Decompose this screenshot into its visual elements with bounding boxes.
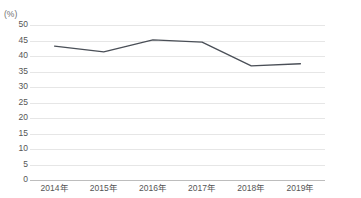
x-axis-tick-labels: 2014年2015年2016年2017年2018年2019年 [30,183,325,197]
series-layer [30,25,325,180]
y-tick-label: 35 [2,67,28,76]
y-tick-label: 50 [2,20,28,29]
x-tick-label: 2014年 [41,183,69,193]
y-tick-label: 45 [2,36,28,45]
y-tick-label: 30 [2,82,28,91]
y-tick-label: 40 [2,51,28,60]
y-axis-unit-label: (%) [4,9,17,19]
x-tick-label: 2018年 [237,183,265,193]
y-tick-label: 10 [2,144,28,153]
y-tick-label: 15 [2,129,28,138]
y-tick-label: 0 [2,175,28,184]
y-tick-label: 25 [2,98,28,107]
chart-title-clipped [0,0,361,7]
y-tick-label: 20 [2,113,28,122]
gridline-0 [30,180,325,181]
y-axis-tick-labels: 50454035302520151050 [0,25,28,180]
series-line-0 [55,40,301,66]
y-tick-label: 5 [2,160,28,169]
x-tick-label: 2015年 [90,183,118,193]
x-tick-label: 2019年 [286,183,314,193]
x-tick-label: 2017年 [188,183,216,193]
x-tick-label: 2016年 [139,183,167,193]
line-chart: (%) 50454035302520151050 2014年2015年2016年… [0,0,361,198]
